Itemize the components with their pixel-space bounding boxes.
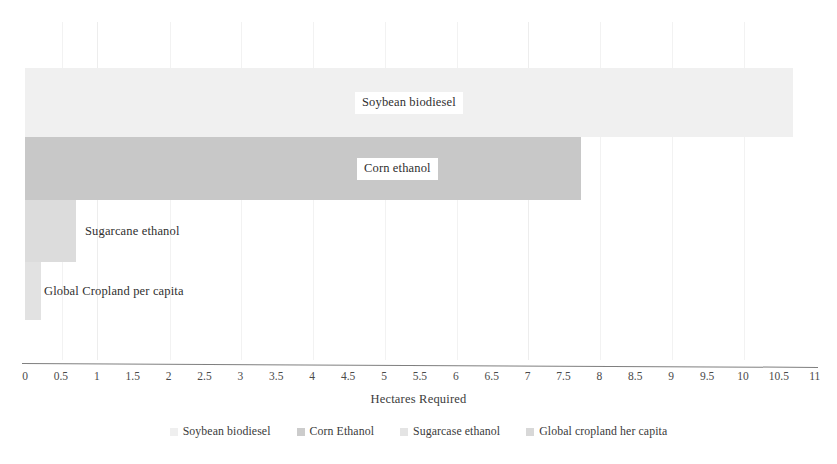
x-axis-tick-label: 0.5 bbox=[54, 370, 68, 382]
legend-item[interactable]: Soybean biodiesel bbox=[170, 424, 271, 439]
plot-area: Soybean biodieselCorn ethanolSugarcane e… bbox=[0, 0, 837, 362]
x-axis-tick-label: 7.5 bbox=[556, 370, 570, 382]
x-axis-tick-label: 4 bbox=[309, 370, 315, 382]
bar-chart: Soybean biodieselCorn ethanolSugarcane e… bbox=[0, 0, 837, 464]
x-axis-tick-label: 7 bbox=[525, 370, 531, 382]
bar-label: Global Cropland per capita bbox=[44, 284, 184, 299]
x-axis-tick-label: 8 bbox=[597, 370, 603, 382]
x-axis-tick-label: 10 bbox=[737, 370, 749, 382]
x-axis-tick-label: 1 bbox=[94, 370, 100, 382]
legend-swatch-icon bbox=[297, 428, 305, 436]
bar-label: Sugarcane ethanol bbox=[85, 224, 180, 239]
x-axis-tick-label: 3.5 bbox=[269, 370, 283, 382]
legend-label: Global cropland her capita bbox=[539, 424, 667, 439]
legend-swatch-icon bbox=[170, 428, 178, 436]
x-axis-tick-label: 5 bbox=[381, 370, 387, 382]
bar-label: Soybean biodiesel bbox=[355, 92, 463, 114]
bar[interactable] bbox=[25, 200, 76, 262]
x-axis-title: Hectares Required bbox=[0, 392, 837, 407]
x-axis-tick-label: 10.5 bbox=[769, 370, 789, 382]
x-axis-tick-label: 6 bbox=[453, 370, 459, 382]
x-axis-tick-label: 2.5 bbox=[197, 370, 211, 382]
x-axis-tick-label: 2 bbox=[166, 370, 172, 382]
x-axis-tick-label: 1.5 bbox=[126, 370, 140, 382]
legend-item[interactable]: Corn Ethanol bbox=[297, 424, 374, 439]
chart-legend: Soybean biodieselCorn EthanolSugarcase e… bbox=[0, 424, 837, 439]
x-axis-tick-labels: 00.511.522.533.544.555.566.577.588.599.5… bbox=[0, 370, 837, 390]
legend-item[interactable]: Sugarcase ethanol bbox=[400, 424, 500, 439]
x-axis-tick-label: 4.5 bbox=[341, 370, 355, 382]
x-axis-tick-label: 8.5 bbox=[628, 370, 642, 382]
x-axis-tick-label: 9.5 bbox=[700, 370, 714, 382]
x-axis-line bbox=[22, 363, 818, 368]
bar[interactable] bbox=[25, 262, 41, 320]
legend-label: Soybean biodiesel bbox=[183, 424, 271, 439]
x-axis-tick-label: 11 bbox=[809, 370, 820, 382]
legend-swatch-icon bbox=[526, 428, 534, 436]
x-axis-tick-label: 6.5 bbox=[485, 370, 499, 382]
legend-item[interactable]: Global cropland her capita bbox=[526, 424, 667, 439]
x-axis-tick-label: 9 bbox=[668, 370, 674, 382]
bar-label: Corn ethanol bbox=[357, 158, 438, 180]
legend-label: Sugarcase ethanol bbox=[413, 424, 500, 439]
bar[interactable] bbox=[25, 137, 581, 200]
x-axis-tick-label: 0 bbox=[22, 370, 28, 382]
x-axis-tick-label: 3 bbox=[238, 370, 244, 382]
x-axis-tick-label: 5.5 bbox=[413, 370, 427, 382]
legend-swatch-icon bbox=[400, 428, 408, 436]
legend-label: Corn Ethanol bbox=[310, 424, 374, 439]
